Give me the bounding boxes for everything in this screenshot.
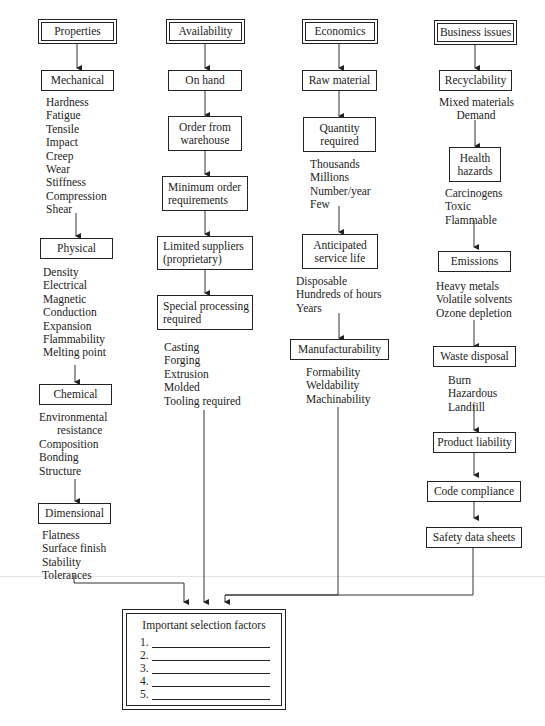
group-quantity-required: Quantity required [303, 117, 376, 152]
group-title-line: hazards [457, 165, 492, 178]
chemical-items: Environmental resistance Composition Bon… [39, 411, 107, 478]
list-item: Volatile solvents [436, 293, 512, 306]
list-item: Tolerances [42, 569, 106, 582]
blank-line-5: 5. [140, 688, 270, 700]
list-item: Flammable [445, 214, 502, 227]
list-item: Creep [46, 150, 107, 163]
group-title: Mechanical [51, 74, 105, 87]
important-selection-factors-box: Important selection factors 1. 2. 3. 4. … [122, 609, 286, 710]
group-title-line: Special processing [163, 300, 249, 313]
list-item: Molded [164, 381, 241, 394]
group-title: Product liability [437, 436, 511, 449]
blank-number: 3. [140, 662, 149, 674]
header-properties: Properties [38, 19, 117, 44]
manufacturability-items: Formability Weldability Machinability [306, 366, 371, 406]
group-title: On hand [185, 74, 224, 87]
blank-number: 2. [140, 649, 149, 661]
list-item: Hundreds of hours [296, 288, 382, 301]
dimensional-items: Flatness Surface finish Stability Tolera… [42, 529, 106, 583]
list-item: Shear [46, 203, 107, 216]
group-manufacturability: Manufacturability [290, 339, 389, 360]
group-title-line: Order from [179, 121, 231, 134]
group-on-hand: On hand [168, 70, 242, 91]
list-item: Few [310, 198, 371, 211]
special-processing-items: Casting Forging Extrusion Molded Tooling… [164, 341, 241, 408]
waste-disposal-items: Burn Hazardous Landfill [448, 374, 497, 414]
recyclability-items: Mixed materials Demand [439, 96, 513, 123]
fill-in-line [152, 651, 270, 661]
list-item: Impact [46, 136, 107, 149]
list-item: Tooling required [164, 395, 241, 408]
group-title: Chemical [53, 388, 97, 401]
group-title-line: Minimum order [168, 181, 241, 194]
group-title: Waste disposal [440, 350, 508, 363]
group-anticipated-service-life: Anticipated service life [302, 234, 378, 269]
list-item: Millions [310, 171, 371, 184]
mechanical-items: Hardness Fatigue Tensile Impact Creep We… [46, 96, 107, 217]
list-item: Hardness [46, 96, 107, 109]
list-item: Burn [448, 374, 497, 387]
header-label: Properties [54, 25, 101, 38]
fill-in-line [152, 677, 270, 687]
group-title-line: required [163, 313, 249, 326]
group-title-line: warehouse [179, 134, 231, 147]
list-item: Weldability [306, 379, 371, 392]
list-item: Conduction [43, 306, 106, 319]
group-dimensional: Dimensional [38, 503, 111, 524]
group-raw-material: Raw material [302, 70, 377, 91]
group-limited-suppliers: Limited suppliers (proprietary) [157, 236, 253, 270]
blank-line-4: 4. [140, 675, 270, 687]
group-title: Physical [57, 242, 96, 255]
list-item: Disposable [296, 275, 382, 288]
group-title-line: service life [313, 252, 367, 265]
group-health-hazards: Health hazards [449, 147, 501, 182]
list-item: Forging [164, 354, 241, 367]
list-item: Density [43, 266, 106, 279]
group-title-line: Health [457, 152, 492, 165]
list-item: Stability [42, 556, 106, 569]
group-title: Raw material [309, 74, 371, 87]
physical-items: Density Electrical Magnetic Conduction E… [43, 266, 106, 360]
list-item: Wear [46, 163, 107, 176]
blank-number: 4. [140, 675, 149, 687]
blank-number: 1. [140, 636, 149, 648]
list-item: Landfill [448, 401, 497, 414]
blank-line-3: 3. [140, 662, 270, 674]
group-title-line: (proprietary) [163, 253, 244, 266]
blank-line-2: 2. [140, 649, 270, 661]
header-business-issues: Business issues [434, 20, 517, 45]
group-title: Manufacturability [298, 343, 381, 356]
group-safety-data-sheets: Safety data sheets [426, 527, 522, 548]
list-item: Tensile [46, 123, 107, 136]
header-label: Business issues [440, 26, 511, 39]
group-title-line: Quantity [319, 122, 359, 135]
group-minimum-order-requirements: Minimum order requirements [162, 176, 248, 211]
emissions-items: Heavy metals Volatile solvents Ozone dep… [436, 280, 512, 320]
list-item: Heavy metals [436, 280, 512, 293]
fill-in-line [152, 690, 270, 700]
header-label: Economics [314, 25, 365, 38]
list-item: resistance [39, 424, 107, 437]
list-item: Fatigue [46, 109, 107, 122]
list-item: Flammability [43, 333, 106, 346]
group-title-line: requirements [168, 194, 241, 207]
list-item: Carcinogens [445, 187, 502, 200]
fill-in-line [152, 638, 270, 648]
blank-line-1: 1. [140, 636, 270, 648]
list-item: Stiffness [46, 176, 107, 189]
list-item: Casting [164, 341, 241, 354]
list-item: Toxic [445, 200, 502, 213]
quantity-items: Thousands Millions Number/year Few [310, 158, 371, 212]
service-life-items: Disposable Hundreds of hours Years [296, 275, 382, 315]
list-item: Flatness [42, 529, 106, 542]
group-title: Emissions [451, 255, 498, 268]
list-item: Ozone depletion [436, 307, 512, 320]
final-title: Important selection factors [127, 619, 281, 631]
list-item: Structure [39, 465, 107, 478]
group-special-processing: Special processing required [157, 295, 253, 330]
list-item: Thousands [310, 158, 371, 171]
group-order-from-warehouse: Order from warehouse [168, 116, 242, 151]
group-title: Dimensional [45, 507, 104, 520]
fill-in-line [152, 664, 270, 674]
group-title: Code compliance [434, 485, 514, 498]
